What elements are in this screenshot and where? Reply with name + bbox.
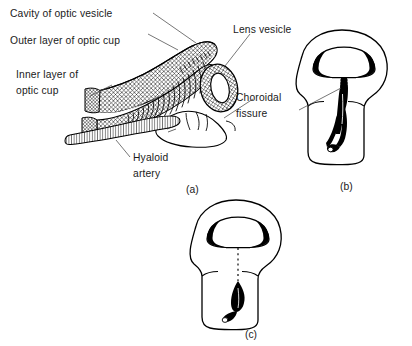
leader-outer-layer (148, 34, 178, 50)
leader-lens-vesicle (225, 34, 250, 66)
caption-b: (b) (340, 181, 353, 192)
leader-hyaloid (116, 140, 130, 157)
leader-cavity (153, 13, 196, 43)
eye-development-diagram: Cavity of optic vesicle Outer layer of o… (0, 0, 412, 346)
label-hyaloid-line2: artery (133, 168, 161, 179)
label-choroidal-line2: fissure (236, 108, 268, 119)
label-inner-layer-line1: Inner layer of (16, 69, 78, 80)
panel-b (296, 30, 387, 165)
caption-c: (c) (245, 329, 257, 340)
panel-c (190, 200, 281, 330)
label-cavity-of-optic-vesicle: Cavity of optic vesicle (10, 8, 113, 19)
caption-a: (a) (186, 184, 199, 195)
label-choroidal-line1: Choroidal (236, 92, 281, 103)
label-outer-layer-of-optic-cup: Outer layer of optic cup (10, 35, 120, 46)
label-lens-vesicle: Lens vesicle (233, 24, 292, 35)
label-hyaloid-line1: Hyaloid (133, 152, 169, 163)
label-inner-layer-line2: optic cup (16, 85, 59, 96)
